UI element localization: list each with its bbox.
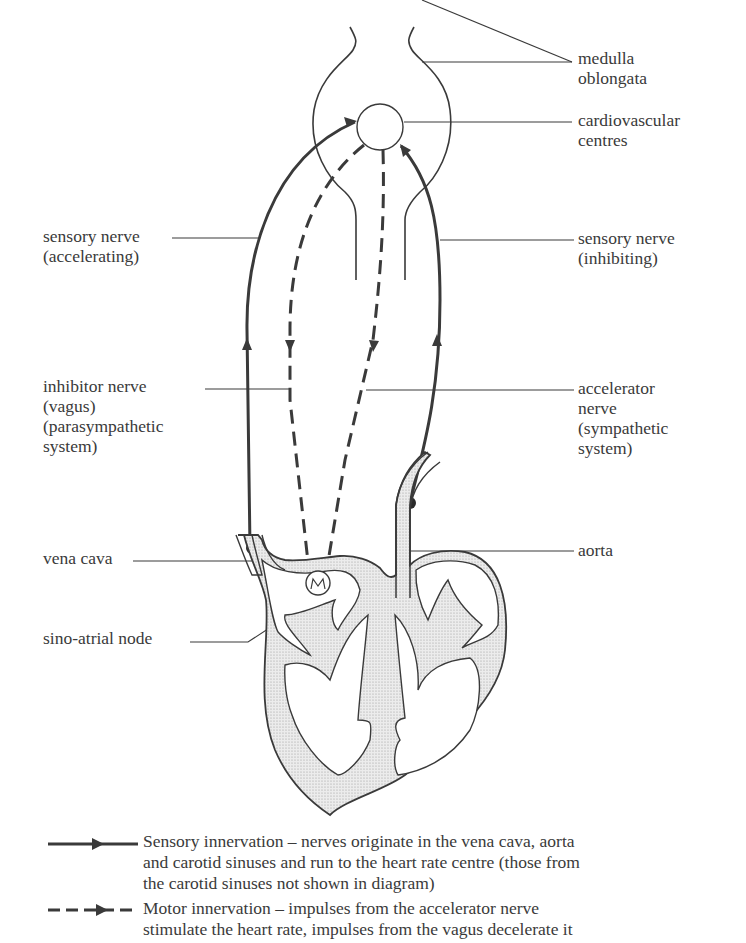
arrowhead-up-left xyxy=(242,338,252,350)
label-cardiovascular-centres: cardiovascular centres xyxy=(578,110,680,150)
heart xyxy=(236,452,506,815)
label-line: (accelerating) xyxy=(43,246,140,266)
label-line: centres xyxy=(578,130,680,150)
legend: Sensory innervation – nerves originate i… xyxy=(48,831,580,943)
sino-atrial-node xyxy=(306,571,330,595)
label-line: system) xyxy=(43,436,164,456)
label-line: sensory nerve xyxy=(43,226,140,246)
inhibitor-nerve-vagus xyxy=(290,145,364,580)
heart-outer-wall xyxy=(238,452,506,815)
cardiovascular-centre-circle xyxy=(357,104,403,150)
label-line: sensory nerve xyxy=(578,228,675,248)
legend-text: the carotid sinuses not shown in diagram… xyxy=(143,873,580,894)
label-line: system) xyxy=(578,438,668,458)
label-line: inhibitor nerve xyxy=(43,376,164,396)
label-line: medulla xyxy=(578,48,647,68)
label-line: sino-atrial node xyxy=(43,628,152,648)
legend-item-sensory: Sensory innervation – nerves originate i… xyxy=(48,831,580,894)
label-line: (inhibiting) xyxy=(578,248,675,268)
accelerator-nerve xyxy=(325,150,383,580)
label-vena-cava: vena cava xyxy=(43,548,112,568)
leader-lines xyxy=(133,0,574,642)
label-line: aorta xyxy=(578,540,613,560)
label-sensory-nerve-accelerating: sensory nerve (accelerating) xyxy=(43,226,140,266)
label-line: nerve xyxy=(578,398,668,418)
label-line: accelerator xyxy=(578,378,668,398)
label-sino-atrial-node: sino-atrial node xyxy=(43,628,152,648)
label-sensory-nerve-inhibiting: sensory nerve (inhibiting) xyxy=(578,228,675,268)
label-line: (vagus) xyxy=(43,396,164,416)
legend-text: stimulate the heart rate, impulses from … xyxy=(143,919,580,940)
label-line: (parasympathetic xyxy=(43,416,164,436)
label-line: vena cava xyxy=(43,548,112,568)
label-medulla-oblongata: medulla oblongata xyxy=(578,48,647,88)
label-line: (sympathetic xyxy=(578,418,668,438)
label-accelerator-nerve: accelerator nerve (sympathetic system) xyxy=(578,378,668,458)
arrowhead-down-vagus xyxy=(285,340,295,352)
legend-item-motor: Motor innervation – impulses from the ac… xyxy=(48,898,580,940)
legend-text: and carotid sinuses and run to the heart… xyxy=(143,852,580,873)
legend-text: Motor innervation – impulses from the ac… xyxy=(143,898,580,919)
label-aorta: aorta xyxy=(578,540,613,560)
label-inhibitor-nerve: inhibitor nerve (vagus) (parasympathetic… xyxy=(43,376,164,456)
label-line: cardiovascular xyxy=(578,110,680,130)
legend-text: Sensory innervation – nerves originate i… xyxy=(143,831,580,852)
label-line: oblongata xyxy=(578,68,647,88)
sensory-nerve-inhibiting xyxy=(401,146,440,503)
